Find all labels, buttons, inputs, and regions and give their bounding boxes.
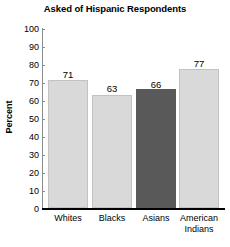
x-category-line: Indians <box>171 224 227 235</box>
y-axis-tick-labels: 100 90 80 70 60 50 40 30 20 10 0 <box>0 0 39 247</box>
y-tick-label: 0 <box>3 205 39 214</box>
y-tick-label: 20 <box>3 169 39 178</box>
bar-value-label: 71 <box>48 70 88 80</box>
bar-value-label: 77 <box>179 59 219 69</box>
y-tick-label: 60 <box>3 97 39 106</box>
bar-value-label: 63 <box>92 84 132 94</box>
y-tick-label: 80 <box>3 61 39 70</box>
bar-fill <box>179 69 219 208</box>
bar-chart: Asked of Hispanic Respondents Percent 10… <box>0 0 230 247</box>
bar-fill <box>48 80 88 208</box>
bar-american-indians[interactable] <box>179 69 219 208</box>
bar-fill <box>92 95 132 208</box>
bar-fill <box>136 89 176 208</box>
bar-blacks[interactable] <box>92 95 132 208</box>
bar-whites[interactable] <box>48 80 88 208</box>
x-category-label-american-indians: American Indians <box>171 213 227 234</box>
y-tick-label: 40 <box>3 133 39 142</box>
x-axis-line <box>42 208 225 210</box>
y-tick-label: 50 <box>3 115 39 124</box>
y-tick-label: 10 <box>3 187 39 196</box>
bar-value-label: 66 <box>136 80 176 90</box>
y-tick-label: 90 <box>3 43 39 52</box>
x-category-line: American <box>171 213 227 224</box>
y-tick-label: 30 <box>3 151 39 160</box>
bar-asians[interactable] <box>136 89 176 208</box>
plot-area <box>42 28 225 208</box>
y-tick-label: 70 <box>3 79 39 88</box>
y-tick-label: 100 <box>3 25 39 34</box>
